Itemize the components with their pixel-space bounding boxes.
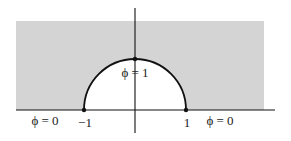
point-minus-one	[82, 108, 86, 112]
tick-one-label: 1	[184, 115, 191, 130]
phi-right-label: ϕ = 0	[206, 113, 233, 128]
point-one	[184, 108, 188, 112]
semicircle-diagram: ϕ = 0 ϕ = 0 ϕ = 1 −1 1	[0, 0, 291, 141]
phi-top-label: ϕ = 1	[121, 65, 148, 80]
phi-left-label: ϕ = 0	[31, 113, 58, 128]
tick-minus-one-label: −1	[78, 115, 92, 130]
point-top	[133, 57, 137, 61]
